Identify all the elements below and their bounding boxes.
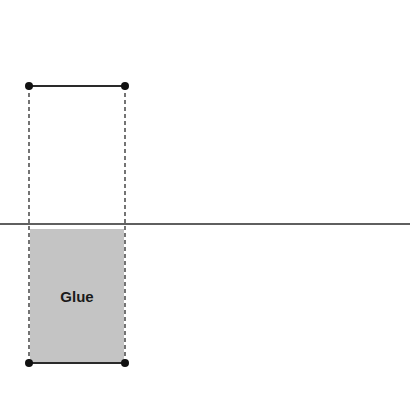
top-left-dot-icon	[25, 82, 33, 90]
glue-diagram: Glue	[0, 0, 410, 403]
glue-label: Glue	[60, 288, 93, 305]
bottom-left-dot-icon	[25, 359, 33, 367]
bottom-right-dot-icon	[121, 359, 129, 367]
top-right-dot-icon	[121, 82, 129, 90]
